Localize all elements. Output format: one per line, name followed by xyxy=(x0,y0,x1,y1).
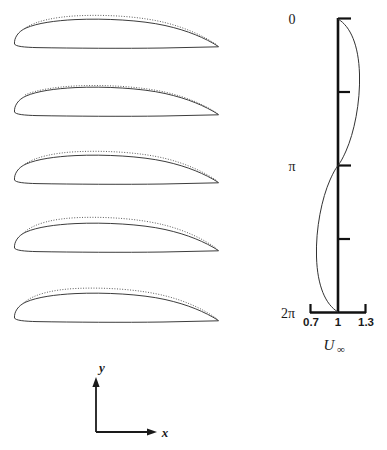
y-axis-arrow-head xyxy=(92,377,99,387)
airfoil-item xyxy=(14,151,218,184)
chart-xlabel-high: 1.3 xyxy=(358,316,374,328)
airfoil-item xyxy=(14,217,218,252)
airfoil-outline xyxy=(14,87,218,116)
chart-xaxis-title: U ∞ xyxy=(324,337,346,355)
coordinate-axes-indicator: y x xyxy=(92,360,168,440)
velocity-symbol: U xyxy=(324,337,336,353)
airfoil-sequence-panel xyxy=(14,15,218,322)
chart-xlabel-mid: 1 xyxy=(335,316,342,328)
chart-ylabel-0: 0 xyxy=(289,12,296,27)
figure-svg: y x 0 π 2π 0.7 1 xyxy=(0,0,387,450)
velocity-subscript: ∞ xyxy=(337,343,345,355)
airfoil-outline xyxy=(14,19,218,48)
airfoil-item xyxy=(14,86,218,117)
airfoil-outline xyxy=(14,293,218,322)
boundary-layer-dotted xyxy=(23,217,216,248)
airfoil-item xyxy=(14,15,218,48)
airfoil-outline xyxy=(14,223,218,252)
velocity-profile-chart: 0 π 2π 0.7 1 1.3 U ∞ xyxy=(281,12,374,355)
chart-ylabel-pi: π xyxy=(288,159,295,174)
boundary-layer-dotted xyxy=(24,288,217,318)
figure-root: y x 0 π 2π 0.7 1 xyxy=(0,0,387,450)
y-axis-label: y xyxy=(97,360,105,375)
x-axis-arrow-head xyxy=(147,428,157,435)
chart-xlabel-low: 0.7 xyxy=(303,316,319,328)
airfoil-item xyxy=(14,288,218,322)
chart-ylabel-2pi: 2π xyxy=(281,306,295,321)
airfoil-outline xyxy=(14,155,218,184)
x-axis-label: x xyxy=(161,425,169,440)
